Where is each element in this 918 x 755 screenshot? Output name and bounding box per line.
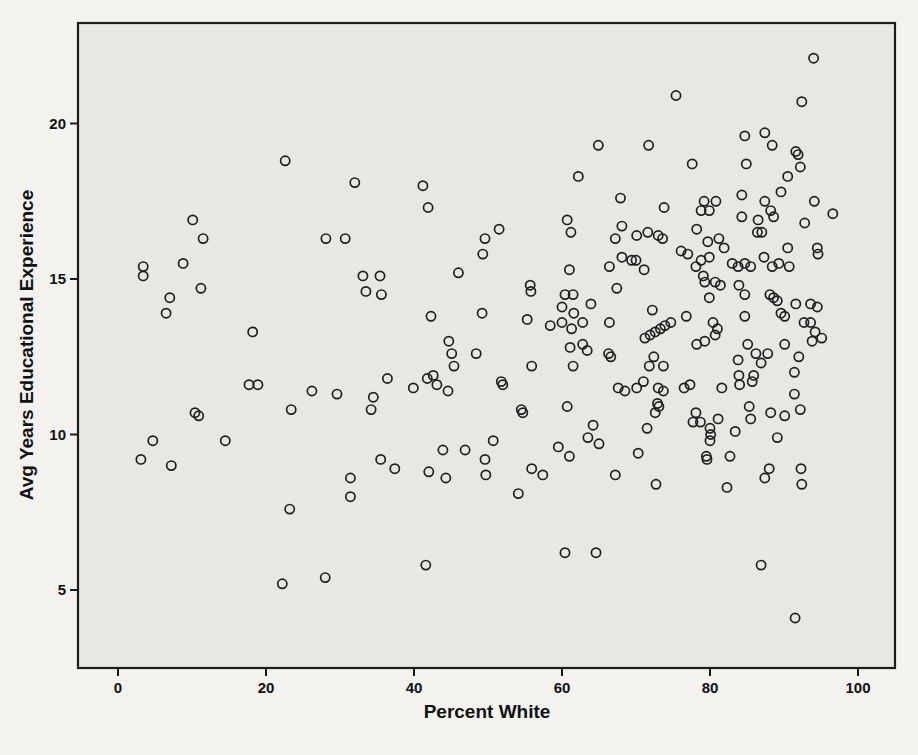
x-tick-label: 0: [114, 679, 122, 696]
y-axis-title: Avg Years Educational Experience: [16, 190, 38, 500]
x-tick-label: 100: [845, 679, 870, 696]
x-axis-title: Percent White: [424, 701, 551, 723]
y-tick-label: 15: [49, 270, 66, 287]
x-tick-label: 80: [702, 679, 719, 696]
plot-panel: [78, 23, 895, 668]
y-tick-label: 20: [49, 115, 66, 132]
x-tick-label: 60: [554, 679, 571, 696]
x-tick-label: 20: [258, 679, 275, 696]
chart-canvas: 0204060801005101520: [0, 0, 918, 755]
y-tick-label: 5: [58, 581, 66, 598]
y-tick-label: 10: [49, 426, 66, 443]
scatter-plot-figure: 0204060801005101520 Avg Years Educationa…: [0, 0, 918, 755]
x-tick-label: 40: [406, 679, 423, 696]
